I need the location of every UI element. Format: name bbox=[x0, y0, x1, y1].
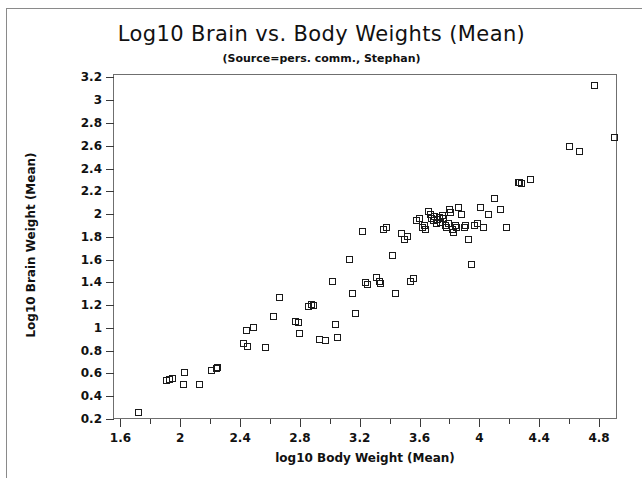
x-axis-tick bbox=[120, 419, 121, 427]
data-point-marker bbox=[527, 176, 534, 183]
data-point-marker bbox=[166, 376, 173, 383]
x-axis-tick-label: 2.4 bbox=[210, 431, 270, 445]
x-axis-tick-label: 1.6 bbox=[90, 431, 150, 445]
x-axis-tick-label: 4.4 bbox=[509, 431, 569, 445]
data-point-marker bbox=[359, 228, 366, 235]
data-point-marker bbox=[477, 204, 484, 211]
data-point-marker bbox=[480, 224, 487, 231]
data-point-marker bbox=[334, 334, 341, 341]
data-point-marker bbox=[576, 148, 583, 155]
data-point-marker bbox=[591, 82, 598, 89]
x-axis-tick-label: 2 bbox=[150, 431, 210, 445]
x-axis-tick bbox=[390, 419, 391, 424]
data-point-marker bbox=[296, 330, 303, 337]
data-point-marker bbox=[497, 206, 504, 213]
x-axis-tick bbox=[479, 419, 480, 427]
data-point-marker bbox=[364, 281, 371, 288]
data-point-marker bbox=[377, 280, 384, 287]
data-point-marker bbox=[332, 321, 339, 328]
y-axis-tick-label: 1.4 bbox=[42, 275, 102, 289]
x-axis-tick bbox=[509, 419, 510, 424]
data-point-marker bbox=[566, 143, 573, 150]
y-axis-tick-label: 2.8 bbox=[42, 116, 102, 130]
data-point-marker bbox=[213, 365, 220, 372]
plot-data-layer bbox=[113, 74, 617, 419]
data-point-marker bbox=[447, 209, 454, 216]
y-axis-tick bbox=[106, 123, 114, 124]
x-axis-tick bbox=[210, 419, 211, 424]
data-point-marker bbox=[389, 252, 396, 259]
x-axis-tick bbox=[420, 419, 421, 427]
data-point-marker bbox=[465, 236, 472, 243]
data-point-marker bbox=[383, 224, 390, 231]
y-axis-tick bbox=[106, 328, 114, 329]
x-axis-tick bbox=[360, 419, 361, 427]
x-axis-tick bbox=[240, 419, 241, 427]
x-axis-tick bbox=[300, 419, 301, 427]
y-axis-tick bbox=[106, 191, 114, 192]
chart-title: Log10 Brain vs. Body Weights (Mean) bbox=[0, 22, 643, 46]
y-axis-tick-label: 1.2 bbox=[42, 298, 102, 312]
x-axis-tick bbox=[150, 419, 151, 424]
y-axis-tick bbox=[106, 77, 114, 78]
data-point-marker bbox=[458, 211, 465, 218]
y-axis-tick-label: 0.2 bbox=[42, 412, 102, 426]
x-axis-tick bbox=[539, 419, 540, 427]
data-point-marker bbox=[503, 224, 510, 231]
data-point-marker bbox=[516, 179, 523, 186]
y-axis-tick-label: 2.6 bbox=[42, 139, 102, 153]
data-point-marker bbox=[180, 381, 187, 388]
data-point-marker bbox=[276, 294, 283, 301]
data-point-marker bbox=[346, 256, 353, 263]
y-axis-tick-label: 1.6 bbox=[42, 253, 102, 267]
x-axis-tick-label: 2.8 bbox=[270, 431, 330, 445]
y-axis-tick-label: 2.2 bbox=[42, 184, 102, 198]
data-point-marker bbox=[468, 261, 475, 268]
data-point-marker bbox=[196, 381, 203, 388]
x-axis-tick-label: 4 bbox=[449, 431, 509, 445]
data-point-marker bbox=[462, 222, 469, 229]
y-axis-tick-label: 2 bbox=[42, 207, 102, 221]
data-point-marker bbox=[349, 290, 356, 297]
y-axis-tick-label: 1.8 bbox=[42, 230, 102, 244]
y-axis-tick-label: 0.4 bbox=[42, 389, 102, 403]
data-point-marker bbox=[329, 278, 336, 285]
y-axis-tick bbox=[106, 214, 114, 215]
y-axis-tick-label: 0.6 bbox=[42, 366, 102, 380]
y-axis-tick-label: 3 bbox=[42, 93, 102, 107]
x-axis-tick-label: 4.8 bbox=[569, 431, 629, 445]
data-point-marker bbox=[485, 211, 492, 218]
data-point-marker bbox=[404, 233, 411, 240]
x-axis-tick-label: 3.2 bbox=[330, 431, 390, 445]
data-point-marker bbox=[262, 344, 269, 351]
y-axis-tick bbox=[106, 419, 114, 420]
data-point-marker bbox=[181, 369, 188, 376]
x-axis-tick bbox=[330, 419, 331, 424]
x-axis-tick bbox=[449, 419, 450, 424]
data-point-marker bbox=[392, 290, 399, 297]
y-axis-tick bbox=[106, 169, 114, 170]
x-axis-tick bbox=[180, 419, 181, 427]
y-axis-tick bbox=[106, 373, 114, 374]
x-axis-tick-label: 3.6 bbox=[390, 431, 450, 445]
y-axis-tick bbox=[106, 396, 114, 397]
y-axis-tick bbox=[106, 282, 114, 283]
data-point-marker bbox=[135, 409, 142, 416]
x-axis-tick bbox=[569, 419, 570, 424]
y-axis-title: Log10 Brain Weight (Mean) bbox=[24, 130, 38, 360]
y-axis-tick-label: 3.2 bbox=[42, 70, 102, 84]
x-axis-tick bbox=[270, 419, 271, 424]
data-point-marker bbox=[410, 275, 417, 282]
data-point-marker bbox=[244, 343, 251, 350]
data-point-marker bbox=[322, 337, 329, 344]
y-axis-tick bbox=[106, 100, 114, 101]
data-point-marker bbox=[491, 195, 498, 202]
y-axis-tick bbox=[106, 260, 114, 261]
data-point-marker bbox=[453, 224, 460, 231]
y-axis-tick bbox=[106, 146, 114, 147]
x-axis-tick bbox=[599, 419, 600, 427]
chart-subtitle: (Source=pers. comm., Stephan) bbox=[0, 52, 643, 65]
data-point-marker bbox=[250, 324, 257, 331]
data-point-marker bbox=[352, 310, 359, 317]
